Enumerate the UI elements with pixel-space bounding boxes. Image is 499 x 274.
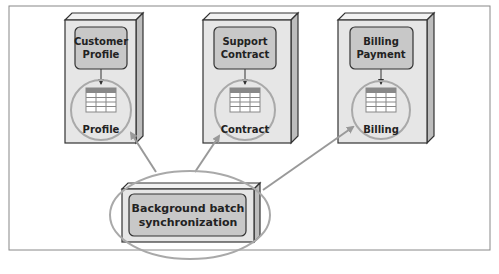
database-label: Profile (83, 124, 120, 135)
component-label: Profile (83, 49, 120, 60)
sync-box (129, 194, 246, 236)
component-label: Payment (356, 49, 405, 60)
sync-label: synchronization (139, 216, 238, 229)
database-table-icon (230, 88, 260, 112)
service-billing-payment: Billing Payment Billing (338, 13, 434, 143)
component-box (214, 27, 276, 69)
service-support-contract: Support Contract Contract (203, 13, 298, 143)
database-label: Contract (221, 124, 270, 135)
component-box (75, 27, 127, 69)
service-customer-profile: Customer Profile Profile (65, 13, 143, 143)
component-label: Customer (74, 36, 128, 47)
component-label: Support (222, 36, 267, 47)
component-box (350, 27, 413, 69)
sync-label: Background batch (132, 202, 245, 215)
component-label: Contract (221, 49, 270, 60)
database-table-icon (366, 88, 396, 112)
database-table-icon (86, 88, 116, 112)
component-label: Billing (363, 36, 399, 47)
database-label: Billing (363, 124, 399, 135)
diagram-canvas: Customer Profile Profile Support Contrac… (0, 0, 499, 274)
